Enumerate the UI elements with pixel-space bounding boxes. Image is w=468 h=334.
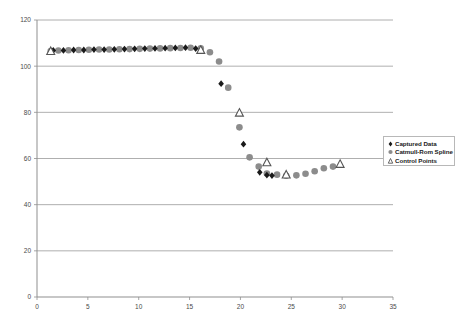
legend-item-control-points[interactable]: Control Points (386, 157, 451, 165)
data-point (152, 45, 158, 52)
y-tick-label: 100 (20, 63, 31, 70)
legend-triangle-icon (388, 158, 392, 163)
x-tick-label: 15 (186, 303, 194, 310)
legend-item-captured-data[interactable]: Captured Data (386, 140, 451, 148)
data-point (65, 47, 72, 54)
data-point (218, 80, 224, 87)
legend-item-catmull-rom-spline[interactable]: Catmull-Rom Spline (386, 148, 451, 156)
y-tick-label: 120 (20, 16, 31, 23)
y-tick-labels: 020406080100120 (20, 16, 31, 300)
data-point (302, 170, 309, 177)
data-point (81, 47, 87, 54)
data-point (330, 163, 337, 170)
data-point (71, 47, 77, 54)
data-point (91, 46, 97, 53)
data-point (246, 154, 253, 161)
legend-circle-icon (388, 150, 392, 154)
data-point (321, 165, 328, 172)
x-tick-label: 0 (35, 303, 39, 310)
x-tick-label: 20 (237, 303, 245, 310)
data-point (173, 45, 179, 52)
data-point (86, 46, 93, 53)
legend-item-label: Catmull-Rom Spline (395, 148, 453, 156)
x-tick-label: 10 (135, 303, 143, 310)
legend-item-label: Captured Data (395, 140, 437, 148)
y-tick-label: 0 (27, 293, 31, 300)
x-tick-label: 25 (288, 303, 296, 310)
data-point (336, 160, 344, 168)
y-tick-label: 40 (24, 201, 32, 208)
legend-item-label: Control Points (395, 157, 437, 165)
data-point (183, 44, 189, 51)
data-point (257, 169, 263, 176)
data-point (61, 47, 67, 54)
y-axis (34, 20, 37, 297)
data-point (132, 45, 138, 52)
triangle-icon (386, 157, 395, 165)
chart-container: 05101520253035 020406080100120 Captured … (0, 0, 468, 334)
data-point (207, 49, 214, 56)
x-tick-label: 35 (389, 303, 397, 310)
data-point (236, 124, 243, 131)
data-point (216, 58, 223, 65)
y-tick-label: 60 (24, 155, 32, 162)
y-tick-label: 80 (24, 109, 32, 116)
chart-legend[interactable]: Captured DataCatmull-Rom SplineControl P… (383, 136, 455, 166)
x-axis (37, 297, 393, 300)
x-tick-labels: 05101520253035 (35, 303, 397, 310)
x-tick-label: 30 (339, 303, 347, 310)
data-point (225, 84, 232, 91)
grid-lines (37, 20, 393, 251)
y-tick-label: 20 (24, 247, 32, 254)
circle-icon (386, 148, 395, 156)
data-point (122, 46, 128, 53)
legend-diamond-icon (389, 141, 393, 146)
data-point (241, 141, 247, 148)
data-point (311, 168, 318, 175)
x-tick-label: 5 (86, 303, 90, 310)
data-point (263, 158, 271, 166)
data-point (293, 172, 300, 179)
data-point (142, 45, 148, 52)
data-point (162, 45, 168, 52)
data-point (112, 46, 118, 53)
series-catmull-rom-spline (47, 44, 336, 179)
scatter-plot: 05101520253035 020406080100120 (0, 0, 468, 334)
data-point (255, 163, 262, 170)
diamond-icon (386, 140, 395, 148)
data-point (274, 171, 281, 178)
data-point (101, 46, 107, 53)
